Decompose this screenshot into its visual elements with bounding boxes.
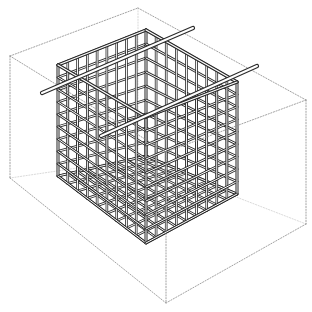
top-rim-core [146,30,237,82]
box-edge [10,8,138,56]
front-right-face-hwire-core [146,157,237,201]
basket-front-faces [58,30,237,243]
figure-canvas [0,0,312,312]
wire-basket-diagram [0,0,312,312]
basket-back-faces [58,30,237,243]
support-rods [42,28,257,136]
bounding-box-visible-edges [10,8,306,303]
box-edge [166,224,306,303]
